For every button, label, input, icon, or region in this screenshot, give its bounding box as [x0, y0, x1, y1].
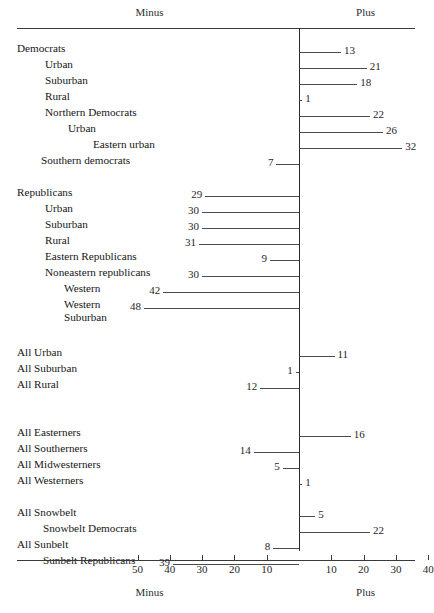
row-label: Eastern Republicans — [45, 250, 137, 263]
row-label: All Suburban — [17, 362, 77, 375]
row-label: Snowbelt Democrats — [43, 522, 137, 535]
bar-value-label: 48 — [130, 300, 141, 312]
row-label: Western Suburban — [64, 298, 107, 324]
value-bar — [299, 100, 302, 101]
bar-value-label: 30 — [188, 220, 199, 232]
value-bar — [260, 388, 299, 389]
bar-value-label: 18 — [360, 76, 371, 88]
row-label: Western — [64, 282, 100, 295]
value-bar — [299, 132, 383, 133]
value-bar — [273, 548, 299, 549]
chart-row: Noneastern republicans30 — [0, 266, 432, 282]
bar-value-label: 5 — [318, 508, 324, 520]
value-bar — [299, 516, 315, 517]
chart-row: All Suburban1 — [0, 362, 432, 378]
chart-row: Western42 — [0, 282, 432, 298]
bar-value-label: 11 — [338, 348, 349, 360]
chart-row: Urban21 — [0, 58, 432, 74]
bar-value-label: 22 — [373, 524, 384, 536]
axis-tick-label: 20 — [358, 563, 369, 575]
value-bar — [202, 228, 299, 229]
bar-value-label: 29 — [191, 188, 202, 200]
bar-value-label: 1 — [305, 92, 311, 104]
chart-row: Western Suburban48 — [0, 298, 432, 314]
bar-value-label: 30 — [188, 204, 199, 216]
value-bar — [299, 116, 370, 117]
bar-value-label: 13 — [344, 44, 355, 56]
value-bar — [205, 196, 299, 197]
value-bar — [299, 484, 302, 485]
chart-row: Democrats13 — [0, 42, 432, 58]
value-bar — [202, 212, 299, 213]
value-bar — [270, 260, 299, 261]
row-label: Urban — [68, 122, 96, 135]
chart-row: Suburban30 — [0, 218, 432, 234]
axis-tick-label: 20 — [229, 563, 240, 575]
row-label: All Easterners — [17, 426, 81, 439]
chart-row: Snowbelt Democrats22 — [0, 522, 432, 538]
axis-tick — [364, 555, 365, 560]
axis-tick-label: 50 — [132, 563, 143, 575]
bar-value-label: 30 — [188, 268, 199, 280]
axis-tick — [428, 555, 429, 560]
row-label: Democrats — [17, 42, 65, 55]
bar-value-label: 9 — [261, 252, 267, 264]
value-bar — [276, 164, 299, 165]
axis-tick-label: 30 — [197, 563, 208, 575]
axis-tick — [234, 555, 235, 560]
axis-tick — [202, 555, 203, 560]
bar-value-label: 21 — [370, 60, 381, 72]
bar-value-label: 42 — [149, 284, 160, 296]
chart-row: All Sunbelt8 — [0, 538, 432, 554]
chart-row: Urban26 — [0, 122, 432, 138]
bar-value-label: 32 — [405, 140, 416, 152]
row-label: Urban — [45, 202, 73, 215]
row-label: All Midwesterners — [17, 458, 101, 471]
chart-row: Republicans29 — [0, 186, 432, 202]
chart-row: Southern democrats7 — [0, 154, 432, 170]
axis-tick-label: 10 — [326, 563, 337, 575]
axis-tick — [138, 555, 139, 560]
row-label: Southern democrats — [41, 154, 130, 167]
axis-tick — [170, 555, 171, 560]
row-label: All Southerners — [17, 442, 88, 455]
value-bar — [299, 68, 367, 69]
row-label: Eastern urban — [93, 138, 155, 151]
chart-row: Rural31 — [0, 234, 432, 250]
bar-value-label: 8 — [265, 540, 271, 552]
bottom-axis-rule — [17, 560, 415, 561]
row-label: All Sunbelt — [17, 538, 68, 551]
chart-row: Eastern urban32 — [0, 138, 432, 154]
axis-tick-label: 40 — [423, 563, 434, 575]
bar-value-label: 22 — [373, 108, 384, 120]
bar-value-label: 14 — [240, 444, 251, 456]
bar-value-label: 1 — [287, 364, 293, 376]
row-label: All Urban — [17, 346, 62, 359]
chart-row: All Easterners16 — [0, 426, 432, 442]
axis-tick-label: 40 — [164, 563, 175, 575]
chart-row: Northern Democrats22 — [0, 106, 432, 122]
row-label: Suburban — [45, 218, 88, 231]
footer-label-plus: Plus — [299, 586, 432, 598]
value-bar — [283, 468, 299, 469]
chart-row: Rural1 — [0, 90, 432, 106]
row-label: Republicans — [17, 186, 72, 199]
chart-row: All Snowbelt5 — [0, 506, 432, 522]
value-bar — [163, 292, 299, 293]
row-label: Urban — [45, 58, 73, 71]
value-bar — [254, 452, 299, 453]
axis-tick-label: 10 — [261, 563, 272, 575]
chart-row: Urban30 — [0, 202, 432, 218]
chart-row: All Rural12 — [0, 378, 432, 394]
chart-row: Suburban18 — [0, 74, 432, 90]
bar-value-label: 16 — [354, 428, 365, 440]
value-bar — [299, 84, 357, 85]
chart-row: All Urban11 — [0, 346, 432, 362]
bar-value-label: 12 — [246, 380, 257, 392]
value-bar — [299, 436, 351, 437]
axis-tick — [331, 555, 332, 560]
row-label: Rural — [45, 90, 70, 103]
axis-tick — [396, 555, 397, 560]
value-bar — [144, 308, 299, 309]
